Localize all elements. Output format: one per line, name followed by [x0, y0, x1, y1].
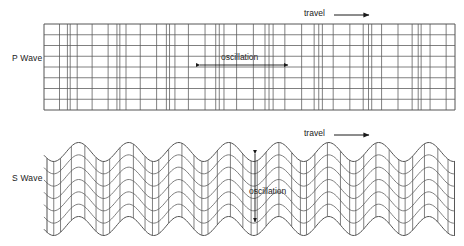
s-wave-grid [44, 143, 455, 236]
s-wave-row-curve [44, 155, 455, 174]
wave-diagram-canvas [0, 0, 464, 246]
p-wave-grid [44, 24, 455, 110]
s-wave-row-curve [44, 167, 455, 186]
s-wave-row-curve [44, 143, 455, 162]
s-wave-row-curve [44, 217, 455, 236]
s-wave-row-curve [44, 192, 455, 211]
seismic-wave-figure: P Wave S Wave travel travel oscillation … [0, 0, 464, 246]
s-wave-row-curve [44, 180, 455, 199]
s-wave-row-curve [44, 204, 455, 223]
